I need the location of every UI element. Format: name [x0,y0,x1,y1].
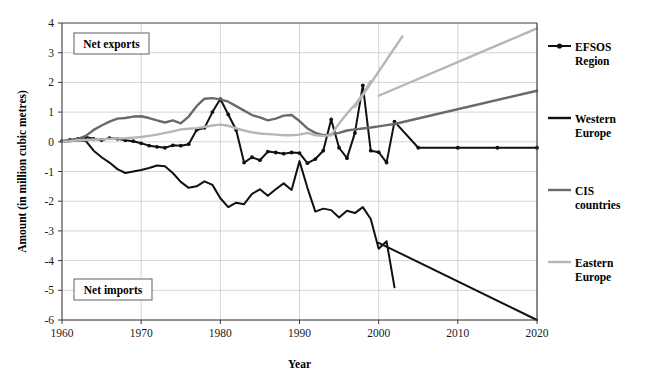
data-point-marker [290,151,294,155]
data-point-marker [242,161,246,165]
legend-label-2-line2: countries [575,199,621,211]
y-axis-title: Amount (in million cubic metres) [16,90,29,253]
data-point-marker [321,149,325,153]
data-point-marker [369,149,373,153]
series-line-western-europe [62,140,395,287]
legend-label-3-line1: Eastern [575,257,614,269]
data-point-marker [226,113,230,117]
x-tick-label: 1980 [209,327,232,339]
data-point-marker [456,146,460,150]
y-tick-label: -5 [44,284,54,296]
data-point-marker [345,156,349,160]
data-point-marker [377,150,381,154]
data-point-marker [211,110,215,114]
data-point-marker [337,146,341,150]
data-point-marker [298,151,302,155]
y-tick-label: -2 [44,195,54,207]
x-tick-label: 2000 [367,327,390,339]
data-point-marker [179,144,183,148]
y-tick-label: 2 [48,76,54,88]
legend-label-3-line2: Europe [575,271,611,284]
data-point-marker [313,157,317,161]
data-point-marker [385,161,389,165]
data-point-marker [361,83,365,87]
chart-legend: EFSOSRegionWesternEuropeCIScountriesEast… [548,41,621,284]
data-point-marker [147,144,151,148]
series-line-cis-countries [62,98,395,141]
data-point-marker [496,146,500,150]
chart-figure: 43210-1-2-3-4-5-619601970198019902000201… [0,0,645,381]
net-imports-label: Net imports [84,284,143,297]
x-tick-label: 1970 [130,327,153,339]
legend-label-1-line1: Western [575,113,616,125]
x-axis-title: Year [288,358,311,370]
y-tick-label: 3 [48,47,54,59]
data-point-marker [187,142,191,146]
data-point-marker [171,143,175,147]
net-exports-label: Net exports [83,38,140,51]
y-tick-label: -4 [44,255,54,267]
legend-label-2-line1: CIS [575,185,594,197]
data-point-marker [163,146,167,150]
x-tick-label: 2020 [526,327,549,339]
data-point-marker [131,139,135,143]
series-line-eastern-europe [62,81,371,142]
y-tick-label: -3 [44,225,54,237]
data-point-marker [282,152,286,156]
data-point-marker [306,161,310,165]
y-tick-label: -1 [44,166,54,178]
data-point-marker [329,118,333,122]
data-point-marker [274,151,278,155]
data-point-marker [250,155,254,159]
x-tick-label: 2010 [446,327,469,339]
legend-marker-0 [557,43,562,48]
exports-imports-line-chart: 43210-1-2-3-4-5-619601970198019902000201… [0,0,645,381]
data-point-marker [266,150,270,154]
data-point-marker [139,141,143,145]
series-line-cis-countries-projection [395,91,538,124]
data-point-marker [258,158,262,162]
data-point-marker [416,146,420,150]
y-tick-label: -6 [44,314,54,326]
x-tick-label: 1960 [51,327,74,339]
data-point-marker [353,131,357,135]
legend-label-1-line2: Europe [575,127,611,140]
legend-label-0-line1: EFSOS [575,41,611,53]
legend-label-0-line2: Region [575,55,610,68]
y-tick-label: 1 [48,106,54,118]
y-tick-label: 4 [48,17,54,29]
x-tick-label: 1990 [288,327,311,339]
y-tick-label: 0 [48,136,54,148]
data-point-marker [155,145,159,149]
